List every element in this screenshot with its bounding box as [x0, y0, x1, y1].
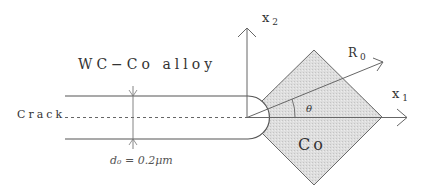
theta-label: θ	[306, 103, 312, 114]
x2-axis-label-base: x	[262, 10, 269, 25]
r0-label: R0	[348, 46, 366, 62]
r0-label-base: R	[348, 46, 357, 60]
inclusion-label: Co	[298, 135, 326, 154]
crack-width-label: d₀ = 0.2μm	[110, 154, 173, 167]
x1-axis-label-subscript: 1	[402, 93, 408, 103]
r0-label-subscript: 0	[360, 52, 366, 62]
x2-axis-label: x2	[262, 10, 278, 27]
material-label: WC−Co alloy	[78, 56, 216, 72]
crack-tip-diagram	[0, 0, 430, 195]
x1-axis-label-base: x	[392, 86, 399, 101]
x2-axis-label-subscript: 2	[272, 17, 278, 27]
x1-axis-label: x1	[392, 86, 408, 103]
crack-label: Crack	[17, 108, 65, 121]
